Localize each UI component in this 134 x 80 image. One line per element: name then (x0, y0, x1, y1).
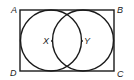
center-label-y: Y (84, 36, 91, 46)
vertex-label-b: B (117, 5, 123, 15)
vertex-label-d: D (10, 68, 17, 78)
vertex-label-c: C (117, 69, 124, 79)
circle-y (53, 10, 114, 71)
rectangle-abcd (20, 10, 114, 71)
center-point-y (81, 40, 83, 42)
circle-x (21, 10, 82, 71)
vertex-label-a: A (10, 5, 17, 15)
center-label-x: X (42, 36, 50, 46)
geometry-diagram: A B C D X Y (0, 0, 134, 80)
center-point-x (51, 40, 53, 42)
